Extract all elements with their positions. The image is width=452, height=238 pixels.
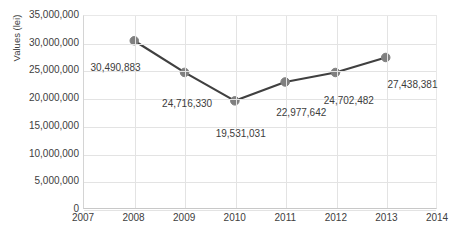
y-axis-tick-label: 20,000,000 (11, 93, 79, 103)
y-axis-tick-label: 0 (11, 204, 79, 214)
data-point-label: 19,531,031 (216, 128, 266, 139)
vertical-gridline (387, 16, 388, 208)
x-axis-tick-label: 2007 (72, 212, 94, 224)
data-point-label: 24,716,330 (162, 98, 212, 109)
vertical-gridline (185, 16, 186, 208)
horizontal-gridline (84, 155, 436, 156)
y-axis-tick-labels: 35,000,00030,000,00025,000,00020,000,000… (11, 0, 79, 238)
data-point-label: 27,438,381 (387, 79, 437, 90)
horizontal-gridline (84, 210, 436, 211)
y-axis-tick-label: 25,000,000 (11, 65, 79, 75)
x-axis-tick-label: 2012 (325, 212, 347, 224)
plot-area (83, 15, 437, 209)
data-point-marker[interactable] (231, 97, 240, 106)
x-axis-tick-label: 2008 (122, 212, 144, 224)
plot-inner (84, 16, 436, 208)
vertical-gridline (337, 16, 338, 208)
x-axis-tick-label: 2014 (426, 212, 448, 224)
x-axis-tick-label: 2013 (375, 212, 397, 224)
y-axis-tick-label: 35,000,000 (11, 10, 79, 20)
data-point-label: 30,490,883 (91, 62, 141, 73)
y-axis-tick-label: 30,000,000 (11, 38, 79, 48)
x-axis-tick-label: 2010 (224, 212, 246, 224)
horizontal-gridline (84, 99, 436, 100)
vertical-gridline (135, 16, 136, 208)
horizontal-gridline (84, 44, 436, 45)
bottom-caption (0, 231, 452, 238)
data-point-marker[interactable] (381, 53, 390, 62)
x-axis-tick-labels: 20072008200920102011201220132014 (83, 212, 437, 232)
data-point-label: 24,702,482 (324, 95, 374, 106)
data-point-marker[interactable] (331, 68, 340, 77)
y-axis-tick-label: 5,000,000 (11, 176, 79, 186)
data-point-label: 22,977,642 (276, 107, 326, 118)
y-axis-tick-label: 10,000,000 (11, 149, 79, 159)
y-axis-tick-label: 15,000,000 (11, 121, 79, 131)
x-axis-tick-label: 2011 (275, 212, 297, 224)
horizontal-gridline (84, 182, 436, 183)
x-axis-tick-label: 2009 (173, 212, 195, 224)
line-chart: Values (lei) 35,000,00030,000,00025,000,… (0, 0, 452, 238)
vertical-gridline (236, 16, 237, 208)
